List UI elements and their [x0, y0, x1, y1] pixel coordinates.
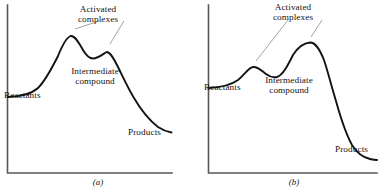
- panel-b-caption: (b): [196, 177, 392, 187]
- panel-b-leader-peak1: [256, 20, 288, 61]
- panel-b-energy-curve: [209, 43, 377, 161]
- energy-profile-figure: Reactants Activated complexes Intermedia…: [0, 0, 392, 194]
- panel-a-activated-line1: Activated: [71, 4, 125, 14]
- panel-a-activated-complexes-label: Activated complexes: [71, 4, 125, 25]
- panel-b-plot: [196, 0, 392, 194]
- panel-a-caption: (a): [0, 177, 196, 187]
- panel-a-products-label: Products: [128, 127, 161, 137]
- panel-a-activated-line2: complexes: [71, 14, 125, 24]
- panel-b-intermediate-line1: Intermediate: [256, 75, 322, 85]
- panel-a-intermediate-line2: compound: [62, 76, 128, 86]
- panel-b-products-label: Products: [335, 144, 368, 154]
- panel-a-reactants-label: Reactants: [4, 90, 41, 100]
- panel-b-activated-line2: complexes: [266, 12, 320, 22]
- panel-a: Reactants Activated complexes Intermedia…: [0, 0, 196, 194]
- panel-b-intermediate-compound-label: Intermediate compound: [256, 75, 322, 96]
- panel-a-axes: [8, 5, 173, 173]
- panel-b-intermediate-line2: compound: [256, 85, 322, 95]
- panel-b-activated-line1: Activated: [266, 2, 320, 12]
- panel-b: Reactants Activated complexes Intermedia…: [196, 0, 392, 194]
- panel-a-intermediate-compound-label: Intermediate compound: [62, 66, 128, 87]
- panel-b-activated-complexes-label: Activated complexes: [266, 2, 320, 23]
- panel-b-reactants-label: Reactants: [204, 82, 241, 92]
- panel-a-intermediate-line1: Intermediate: [62, 66, 128, 76]
